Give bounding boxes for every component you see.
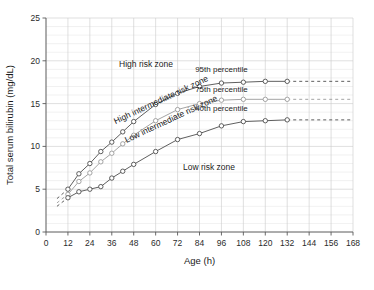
- data-point-marker: [263, 119, 267, 123]
- data-point-marker: [88, 171, 92, 175]
- x-axis-title: Age (h): [184, 255, 215, 266]
- y-tick-label: 25: [31, 13, 41, 23]
- data-point-marker: [110, 151, 114, 155]
- data-point-marker: [263, 79, 267, 83]
- chart-canvas: 0510152025012243648607284961081201321441…: [0, 0, 374, 290]
- x-tick-label: 48: [129, 238, 139, 248]
- y-tick-label: 0: [35, 227, 40, 237]
- bilirubin-nomogram-figure: 0510152025012243648607284961081201321441…: [0, 0, 374, 290]
- data-point-marker: [285, 118, 289, 122]
- data-point-marker: [88, 187, 92, 191]
- data-point-marker: [285, 79, 289, 83]
- data-point-marker: [66, 196, 70, 200]
- y-axis-title: Total serum bilirubin (mg/dL): [4, 65, 15, 185]
- data-point-marker: [263, 97, 267, 101]
- data-point-marker: [241, 119, 245, 123]
- x-tick-label: 132: [280, 238, 294, 248]
- data-point-marker: [121, 169, 125, 173]
- y-tick-label: 20: [31, 56, 41, 66]
- data-point-marker: [121, 142, 125, 146]
- x-tick-label: 168: [346, 238, 360, 248]
- x-tick-label: 120: [258, 238, 272, 248]
- data-point-marker: [132, 162, 136, 166]
- data-point-marker: [175, 137, 179, 141]
- x-tick-label: 12: [63, 238, 73, 248]
- data-point-marker: [132, 119, 136, 123]
- data-point-marker: [66, 187, 70, 191]
- data-point-marker: [99, 160, 103, 164]
- y-tick-label: 10: [31, 141, 41, 151]
- data-point-marker: [110, 176, 114, 180]
- series-annotation-label: 95th percentile: [195, 65, 248, 74]
- x-tick-label: 60: [151, 238, 161, 248]
- data-point-marker: [153, 149, 157, 153]
- zone-annotation-label: Low risk zone: [183, 162, 235, 172]
- data-point-marker: [99, 184, 103, 188]
- data-point-marker: [88, 161, 92, 165]
- data-point-marker: [197, 131, 201, 135]
- data-point-marker: [77, 190, 81, 194]
- data-point-marker: [241, 97, 245, 101]
- y-tick-label: 5: [35, 184, 40, 194]
- data-point-marker: [99, 149, 103, 153]
- x-tick-label: 24: [85, 238, 95, 248]
- x-tick-label: 36: [107, 238, 117, 248]
- x-tick-label: 144: [302, 238, 316, 248]
- data-point-marker: [219, 124, 223, 128]
- x-tick-label: 108: [236, 238, 250, 248]
- data-point-marker: [77, 172, 81, 176]
- x-tick-label: 72: [173, 238, 183, 248]
- data-point-marker: [110, 140, 114, 144]
- data-point-marker: [121, 130, 125, 134]
- x-tick-label: 96: [217, 238, 227, 248]
- y-tick-label: 15: [31, 99, 41, 109]
- data-point-marker: [77, 179, 81, 183]
- x-tick-label: 156: [324, 238, 338, 248]
- series-annotation-label: 75th percentile: [195, 85, 248, 94]
- x-tick-label: 84: [195, 238, 205, 248]
- zone-annotation-label: High risk zone: [119, 59, 173, 69]
- data-point-marker: [285, 97, 289, 101]
- data-point-marker: [219, 98, 223, 102]
- x-tick-label: 0: [44, 238, 49, 248]
